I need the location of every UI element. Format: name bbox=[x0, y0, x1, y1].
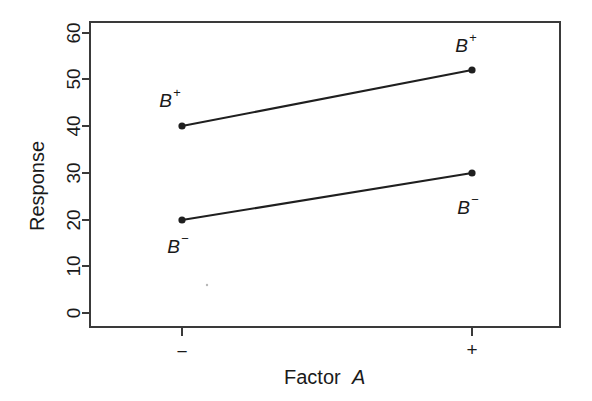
series-b-plus bbox=[178, 66, 475, 129]
y-tick-label-60: 60 bbox=[63, 22, 84, 43]
y-tick-label-20: 20 bbox=[63, 209, 84, 230]
y-tick-label-10: 10 bbox=[63, 255, 84, 276]
plot-canvas: 0 10 20 30 40 50 60 Response − + Factor … bbox=[0, 0, 592, 401]
x-axis-title: Factor A bbox=[284, 366, 365, 388]
series-label-b-minus-left: B − bbox=[167, 231, 189, 257]
series-label-b-minus-right-sup: − bbox=[471, 192, 479, 207]
series-label-b-plus-right: B + bbox=[455, 30, 477, 56]
x-axis-title-static: Factor bbox=[284, 366, 341, 388]
series-label-b-minus-left-base: B bbox=[167, 236, 180, 257]
x-axis-title-italic: A bbox=[351, 366, 365, 388]
series-b-minus-line bbox=[182, 173, 472, 220]
series-label-b-minus-right-base: B bbox=[457, 197, 470, 218]
series-label-b-plus-right-base: B bbox=[455, 35, 468, 56]
y-tick-label-50: 50 bbox=[63, 68, 84, 89]
y-tick-label-30: 30 bbox=[63, 162, 84, 183]
series-b-minus bbox=[178, 169, 475, 223]
x-tick-label-plus: + bbox=[466, 339, 477, 360]
data-point-b-minus-plus bbox=[468, 169, 475, 176]
series-b-plus-line bbox=[182, 70, 472, 126]
scan-speck bbox=[206, 284, 208, 286]
series-label-b-minus-left-sup: − bbox=[181, 231, 189, 246]
data-point-b-plus-plus bbox=[468, 66, 475, 73]
y-tick-label-40: 40 bbox=[63, 115, 84, 136]
y-axis-title: Response bbox=[26, 141, 48, 231]
plot-box-frame bbox=[90, 22, 560, 327]
data-point-b-minus-minus bbox=[178, 216, 185, 223]
interaction-plot-figure: 0 10 20 30 40 50 60 Response − + Factor … bbox=[0, 0, 592, 401]
data-point-b-plus-minus bbox=[178, 122, 185, 129]
series-label-b-minus-right: B − bbox=[457, 192, 479, 218]
y-axis-tick-labels: 0 10 20 30 40 50 60 bbox=[63, 22, 84, 318]
series-label-b-plus-right-sup: + bbox=[469, 30, 477, 45]
x-axis-ticks bbox=[182, 327, 472, 336]
x-tick-label-minus: − bbox=[176, 341, 187, 362]
series-label-b-plus-left-base: B bbox=[159, 90, 172, 111]
series-label-b-plus-left-sup: + bbox=[173, 85, 181, 100]
y-tick-label-0: 0 bbox=[63, 308, 84, 319]
series-label-b-plus-left: B + bbox=[159, 85, 181, 111]
